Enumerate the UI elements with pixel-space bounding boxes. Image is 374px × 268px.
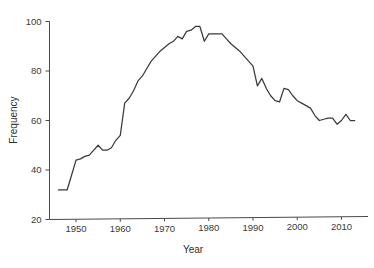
- line-chart-canvas: 20406080100 1950196019701980199020002010…: [0, 0, 374, 268]
- chart-figure: 20406080100 1950196019701980199020002010…: [0, 0, 374, 268]
- x-axis-tick-label: 1950: [65, 223, 86, 234]
- y-axis-tick-label: 80: [31, 65, 42, 76]
- x-axis-tick-label: 2010: [331, 221, 352, 232]
- x-axis-tick-label: 1990: [242, 222, 263, 233]
- y-axis-title: Frequency: [8, 96, 19, 143]
- x-axis-tick-label: 1960: [110, 223, 131, 234]
- y-axis-tick-label: 60: [31, 115, 42, 126]
- x-axis-title: Year: [183, 244, 204, 255]
- y-axis-tick-label: 20: [31, 214, 42, 225]
- y-axis-tick-label: 100: [26, 16, 42, 27]
- x-axis-tick-label: 1980: [198, 222, 219, 233]
- frequency-series-line: [58, 26, 354, 189]
- x-axis-tick-label: 2000: [287, 221, 308, 232]
- y-axis-tick-group: 20406080100: [26, 16, 50, 225]
- y-axis-tick-label: 40: [31, 164, 42, 175]
- x-axis-tick-label: 1970: [154, 223, 175, 234]
